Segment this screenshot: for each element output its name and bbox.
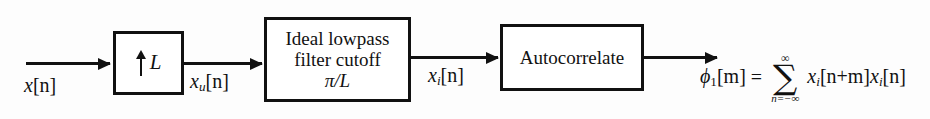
equation-lhs: ϕ1[m] — [700, 65, 746, 90]
lowpass-line-2: filter cutoff — [294, 49, 381, 70]
equation-term-1: xi[n+m] — [807, 65, 870, 90]
arrow-upsampler-to-lowpass — [184, 62, 262, 65]
block-diagram: x[n] L xu[n] Ideal lowpass filter cutoff… — [0, 0, 930, 119]
signal-upsampled-index: [n] — [205, 70, 228, 92]
summation-lower-limit: n=−∞ — [771, 93, 799, 104]
upsample-factor-label: L — [150, 51, 162, 75]
lowpass-cutoff-value: π/L — [325, 70, 350, 91]
signal-label-interpolated: xi[n] — [428, 64, 464, 89]
equation-lhs-subscript: 1 — [710, 75, 717, 90]
block-autocorrelate: Autocorrelate — [500, 24, 644, 91]
signal-label-upsampled: xu[n] — [190, 70, 229, 95]
up-arrow-icon — [136, 50, 146, 76]
equation-term2-base: x — [870, 65, 879, 87]
equation-term1-index: [n+m] — [820, 65, 870, 87]
equation-term2-index: [n] — [883, 65, 906, 87]
equation-lhs-index: [m] — [717, 65, 746, 87]
block-ideal-lowpass-filter: Ideal lowpass filter cutoff π/L — [264, 17, 411, 102]
lowpass-line-1: Ideal lowpass — [286, 28, 390, 49]
signal-interpolated-index: [n] — [441, 64, 464, 86]
sigma-icon: ∑ — [773, 63, 797, 93]
block-upsampler: L — [113, 31, 184, 95]
autocorrelate-label: Autocorrelate — [520, 47, 624, 68]
signal-input-base: x — [24, 74, 33, 96]
signal-interpolated-base: x — [428, 64, 437, 86]
arrow-lowpass-to-autocorrelate — [411, 56, 498, 59]
equation-term1-base: x — [807, 65, 816, 87]
signal-input-index: [n] — [33, 74, 56, 96]
signal-upsampled-base: x — [190, 70, 199, 92]
summation-operator: ∞ ∑ n=−∞ — [771, 52, 799, 104]
equation-term-2: xi[n] — [870, 65, 906, 90]
equation-lhs-base: ϕ — [700, 65, 710, 87]
signal-label-input: x[n] — [24, 74, 56, 97]
equation-equals-sign: = — [751, 66, 762, 89]
output-equation: ϕ1[m] = ∞ ∑ n=−∞ xi[n+m] xi[n] — [700, 52, 906, 104]
arrow-input-to-upsampler — [26, 62, 110, 65]
upsampler-content: L — [136, 50, 162, 76]
